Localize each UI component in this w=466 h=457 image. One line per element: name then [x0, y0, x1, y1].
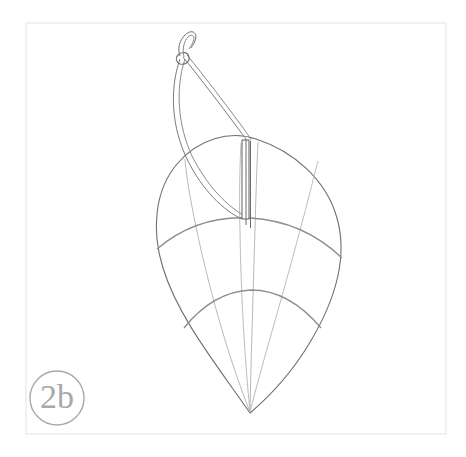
- figure-frame: [26, 23, 446, 434]
- illustration-page: 2b: [0, 0, 466, 457]
- parachute-canopy-illustration: 2b: [0, 0, 466, 457]
- step-label-text: 2b: [40, 378, 74, 415]
